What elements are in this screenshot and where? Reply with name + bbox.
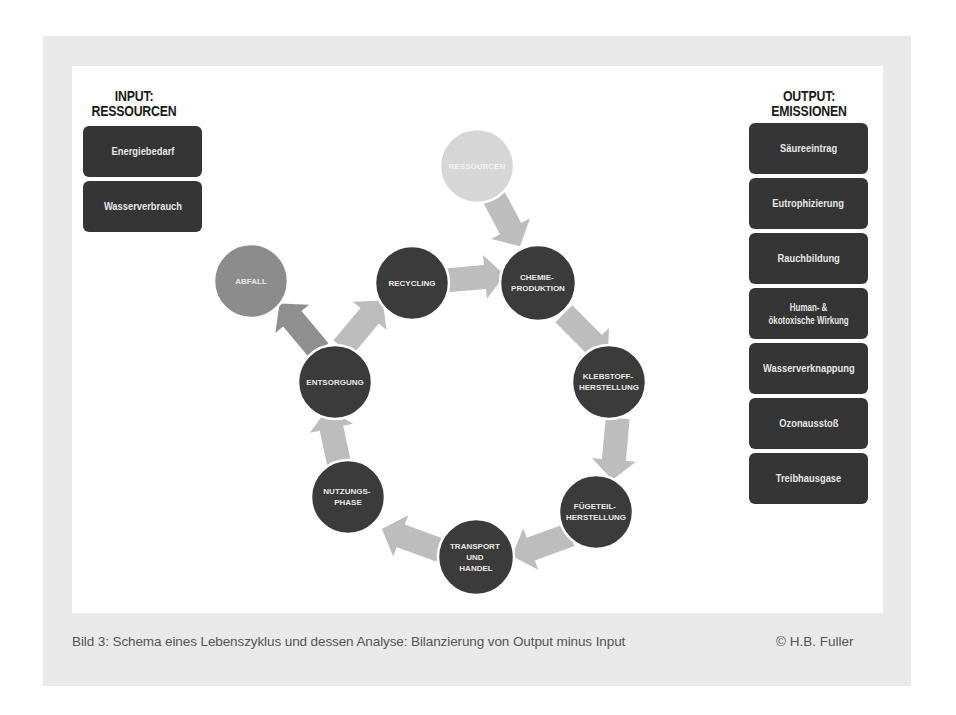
figure-credit: © H.B. Fuller [776,634,853,649]
node-label-entsorgung: ENTSORGUNG [306,378,363,387]
figure-caption: Bild 3: Schema eines Lebenszyklus und de… [72,634,625,649]
arrow-transport-to-nutzung-icon [374,508,447,571]
node-nutzungsphase [311,460,385,534]
node-fuegeteil-herstellung [559,475,633,549]
arrow-recycling-to-chemie-icon [441,253,507,302]
node-klebstoff-herstellung [572,345,646,419]
node-chemie-produktion [500,245,576,321]
node-label-ressourcen: RESSOURCEN [449,162,506,171]
node-label-recycling: RECYCLING [388,279,435,288]
node-label-abfall: ABFALL [235,277,267,286]
life-cycle-diagram: RESSOURCEN CHEMIE- PRODUKTION KLEBSTOFF-… [0,0,956,715]
arrow-klebstoff-to-fuegeteil-icon [590,416,639,482]
